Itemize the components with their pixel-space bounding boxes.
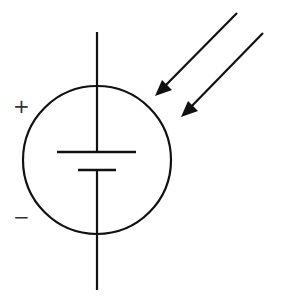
positive-label: + (13, 96, 30, 116)
light-arrows (155, 13, 263, 117)
battery-plates (57, 152, 136, 170)
arrow-icon (160, 13, 237, 91)
pv-cell-symbol (0, 0, 281, 308)
negative-label: − (13, 207, 30, 227)
arrow-icon (186, 33, 263, 112)
